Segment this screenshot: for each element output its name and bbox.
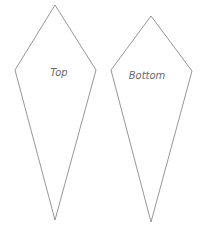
kite-label-top: Top [50,67,67,78]
kite-piece-top: Top [15,5,96,220]
kite-outline-bottom [111,16,192,222]
kite-outline-top [15,5,96,220]
kite-pattern-diagram: Top Bottom [0,0,200,237]
kite-piece-bottom: Bottom [111,16,192,222]
kite-label-bottom: Bottom [129,70,166,81]
